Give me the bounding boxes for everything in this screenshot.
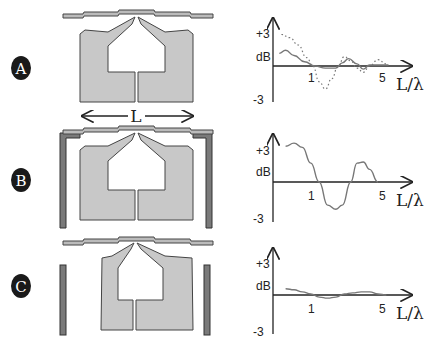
plot-b: +3 dB -3 1 5 L/λ	[253, 134, 424, 226]
antenna-c	[60, 237, 213, 335]
radiator-right-c	[136, 243, 193, 330]
reflector-left-b	[60, 133, 80, 228]
radiator-left-a	[80, 17, 135, 102]
x-tick-5-c: 5	[379, 302, 386, 316]
radiator-left-b	[80, 133, 135, 220]
badge-c-label: C	[15, 278, 26, 296]
y-bottom-label-a: -3	[253, 93, 264, 107]
reflector-left-c	[60, 265, 66, 335]
badge-c: C	[11, 274, 31, 298]
y-top-label-a: +3	[256, 27, 270, 41]
x-label-b: L/λ	[396, 190, 424, 210]
plot-c: +3 dB -3 1 5 L/λ	[253, 248, 424, 339]
badge-a-label: A	[15, 60, 27, 78]
panel-b: B +3 dB -3 1 5 L/λ	[11, 126, 424, 228]
dimension-l-label: L	[130, 106, 141, 126]
dimension-l: L	[82, 106, 193, 126]
x-tick-1-a: 1	[308, 71, 315, 85]
curve-c-solid	[286, 289, 387, 298]
y-unit-label-b: dB	[256, 165, 271, 179]
x-label-a: L/λ	[396, 74, 424, 94]
panel-c: C +3 dB -3 1 5 L/λ	[11, 237, 424, 339]
radiator-right-b	[138, 133, 193, 220]
badge-b-label: B	[15, 172, 26, 190]
y-top-label-b: +3	[256, 144, 270, 158]
x-tick-5-a: 5	[379, 71, 386, 85]
badge-b: B	[11, 168, 31, 192]
y-bottom-label-b: -3	[253, 212, 264, 226]
antenna-a	[63, 10, 213, 102]
radiator-right-a	[138, 17, 193, 102]
y-bottom-label-c: -3	[253, 325, 264, 339]
y-unit-label-a: dB	[256, 50, 271, 64]
y-top-label-c: +3	[256, 257, 270, 271]
curve-b-solid	[286, 143, 378, 209]
radiator-left-c	[101, 243, 134, 330]
curve-a-dotted	[281, 35, 386, 90]
reflector-right-c	[204, 265, 210, 335]
reflector-right-b	[193, 133, 212, 228]
x-label-c: L/λ	[396, 303, 424, 323]
plot-a: +3 dB -3 1 5 L/λ	[253, 18, 424, 107]
antenna-b	[60, 126, 213, 228]
badge-a: A	[11, 56, 31, 80]
x-tick-1-b: 1	[308, 189, 315, 203]
y-unit-label-c: dB	[256, 279, 271, 293]
diagram-canvas: A L +3 dB -3 1 5 L/λ B	[0, 0, 436, 345]
x-tick-5-b: 5	[379, 189, 386, 203]
x-tick-1-c: 1	[308, 302, 315, 316]
panel-a: A L +3 dB -3 1 5 L/λ	[11, 10, 424, 126]
